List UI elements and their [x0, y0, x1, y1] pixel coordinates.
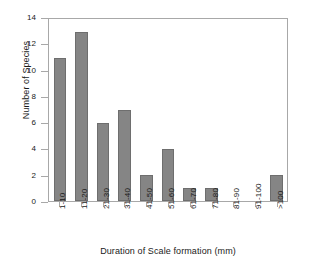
- y-tick-label: 8: [22, 93, 36, 101]
- bar-slot: [92, 19, 114, 201]
- y-tick-mark: [41, 18, 48, 19]
- bar: [54, 58, 67, 201]
- x-tick-label: >100: [277, 191, 285, 209]
- bar: [75, 32, 88, 201]
- bar-slot: [179, 19, 201, 201]
- x-tick-label: 1-10: [59, 193, 67, 209]
- bar-slot: [222, 19, 244, 201]
- y-tick-label: 12: [22, 40, 36, 48]
- x-tick-label: 41-50: [146, 188, 154, 209]
- y-tick-mark: [41, 123, 48, 124]
- chart-figure: Number of Species 02468101214 1-1011-202…: [0, 0, 327, 266]
- bar-slot: [265, 19, 287, 201]
- y-tick-mark: [41, 97, 48, 98]
- x-tick-label: 11-20: [81, 189, 89, 209]
- bar-slot: [71, 19, 93, 201]
- y-tick-label: 0: [22, 198, 36, 206]
- y-tick-label: 4: [22, 145, 36, 153]
- y-tick-mark: [41, 71, 48, 72]
- y-tick-label: 14: [22, 14, 36, 22]
- x-tick-label: 91-100: [255, 183, 263, 209]
- bar-slot: [136, 19, 158, 201]
- bar-slot: [157, 19, 179, 201]
- bar-series: [49, 19, 287, 201]
- y-tick-mark: [41, 202, 48, 203]
- y-tick-mark: [41, 149, 48, 150]
- bar-slot: [114, 19, 136, 201]
- bar-slot: [244, 19, 266, 201]
- bar-slot: [200, 19, 222, 201]
- y-tick-label: 6: [22, 119, 36, 127]
- y-tick-mark: [41, 176, 48, 177]
- bar-slot: [49, 19, 71, 201]
- x-tick-label: 81-90: [233, 188, 241, 209]
- x-tick-label: 21-30: [103, 188, 111, 209]
- x-tick-label: 51-60: [168, 188, 176, 209]
- x-tick-label: 31-40: [124, 188, 132, 209]
- y-tick-label: 10: [22, 67, 36, 75]
- x-axis-title: Duration of Scale formation (mm): [48, 246, 288, 256]
- y-tick-label: 2: [22, 172, 36, 180]
- y-tick-mark: [41, 44, 48, 45]
- x-tick-label: 61-70: [190, 188, 198, 209]
- x-tick-label: 71-80: [212, 188, 220, 209]
- plot-area: [48, 18, 288, 202]
